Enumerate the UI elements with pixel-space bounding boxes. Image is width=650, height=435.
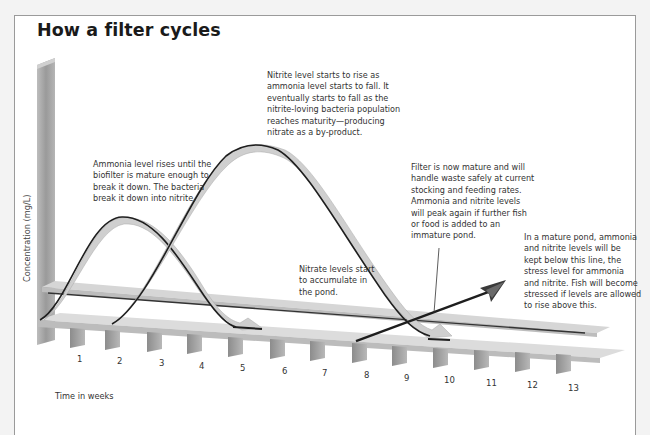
mature-callout-pointer: [434, 248, 439, 313]
y-axis-label: Concentration (mg/L): [22, 195, 32, 282]
time-axis-plane: [38, 313, 625, 363]
annotation-ammonia: Ammonia level rises until the biofilter …: [93, 159, 228, 205]
annotation-stress-level: In a mature pond, ammonia and nitrite le…: [524, 232, 649, 312]
annotation-nitrite: Nitrite level starts to rise as ammonia …: [267, 70, 417, 138]
annotation-mature-filter: Filter is now mature and will handle was…: [411, 162, 541, 242]
week-label-4: 4: [199, 361, 204, 371]
week-label-12: 12: [527, 380, 538, 390]
week-label-3: 3: [159, 358, 164, 368]
week-label-10: 10: [444, 375, 455, 385]
annotation-nitrate: Nitrate levels start to accumulate in th…: [299, 264, 399, 298]
x-axis-label: Time in weeks: [55, 391, 113, 401]
ammonia-curve: [40, 217, 262, 330]
y-axis-post: [37, 58, 55, 345]
week-label-11: 11: [486, 378, 497, 388]
week-label-7: 7: [322, 368, 327, 378]
week-label-5: 5: [240, 363, 245, 373]
week-label-8: 8: [364, 370, 369, 380]
week-label-1: 1: [77, 354, 82, 364]
week-label-2: 2: [117, 356, 122, 366]
week-label-6: 6: [282, 366, 287, 376]
week-label-13: 13: [568, 383, 579, 393]
week-label-9: 9: [404, 373, 409, 383]
